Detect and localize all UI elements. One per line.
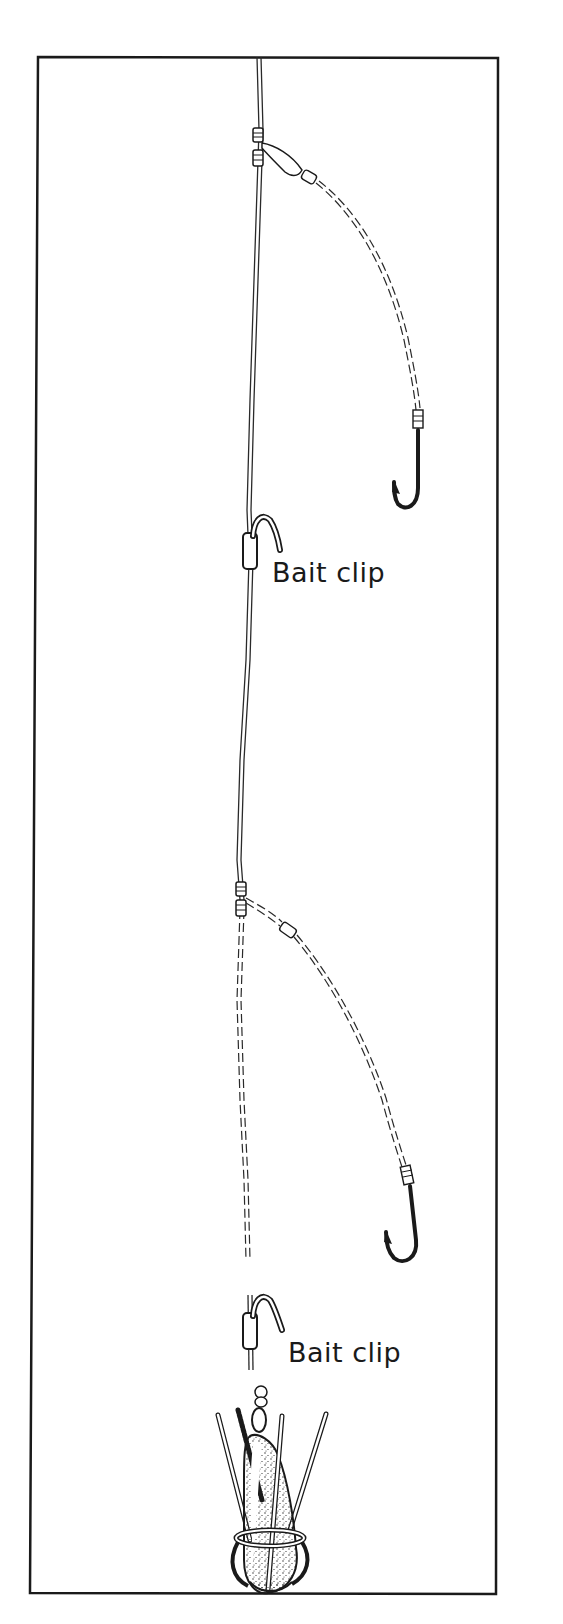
- upper-dropper-knot: [253, 128, 318, 185]
- lower-bait-clip-icon: [243, 1297, 282, 1349]
- lower-dropper-knot: [236, 882, 297, 939]
- grip-sinker-icon: [218, 1410, 326, 1593]
- upper-dropper-line: [316, 183, 416, 410]
- sinker-swivel: [252, 1386, 267, 1432]
- lower-hook-icon: [384, 1165, 416, 1261]
- lower-bait-clip-label: Bait clip: [288, 1337, 401, 1368]
- upper-bait-clip-label: Bait clip: [272, 557, 385, 588]
- upper-dropper-line-2: [319, 181, 420, 408]
- diagram-frame: [30, 57, 498, 1594]
- upper-hook-icon: [392, 410, 423, 507]
- rig-diagram: Bait clip Bait clip: [0, 0, 563, 1624]
- main-line: [237, 57, 263, 1370]
- lower-dropper-line: [294, 937, 403, 1170]
- lower-dropper-line-2: [297, 935, 407, 1168]
